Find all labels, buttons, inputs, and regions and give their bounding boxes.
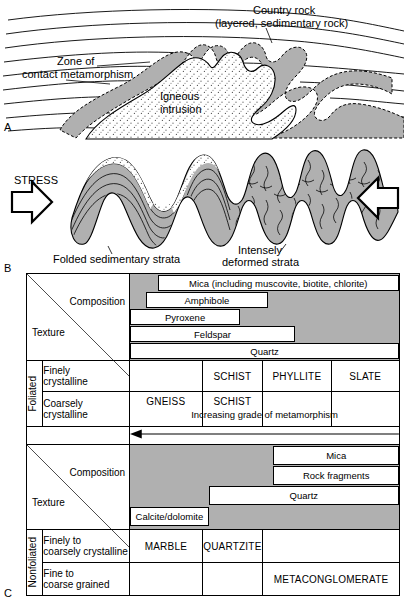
nonfoliated-header-row: Composition Texture Mica Rock fragments … bbox=[27, 445, 400, 530]
contact-metamorphism-label: contact metamorphism bbox=[22, 68, 133, 80]
panel-c-classification-table: B Composition Texture Mica (including mu… bbox=[0, 270, 404, 599]
folded-strata-label: Folded sedimentary strata bbox=[53, 253, 180, 265]
cell-nonfoliated-fine-marble bbox=[130, 563, 202, 596]
cell-nonfoliated-meta-empty bbox=[263, 530, 400, 563]
nonfoliated-composition-bars: Mica Rock fragments Quartz Calcite/dolom… bbox=[130, 445, 400, 530]
nonfoliated-corner-header: Composition Texture bbox=[27, 445, 130, 530]
bar-feldspar: Feldspar bbox=[130, 326, 295, 342]
composition-header-foliated: Composition bbox=[70, 296, 126, 307]
nonfoliated-group-label: Nonfoliated bbox=[27, 537, 38, 588]
grade-arrow-row: Increasing grade of metamorphism bbox=[27, 427, 400, 445]
texture-coarsely-crystalline: Coarsely crystalline bbox=[43, 392, 130, 427]
cell-foliated-fine-schist: SCHIST bbox=[202, 361, 263, 392]
cell-foliated-fine-gneiss bbox=[130, 361, 202, 392]
country-rock-label: Country rock bbox=[253, 4, 315, 16]
panel-b-regional-metamorphism: STRESS Folded sedimentary strata Intense… bbox=[0, 140, 404, 270]
cell-foliated-fine-slate: SLATE bbox=[331, 361, 399, 392]
composition-header-nonfoliated: Composition bbox=[70, 467, 126, 478]
texture-header-nonfoliated: Texture bbox=[32, 497, 65, 508]
cell-nonfoliated-fine-quartzite bbox=[202, 563, 263, 596]
grade-arrow-icon bbox=[130, 427, 399, 441]
cell-nonfoliated-quartzite: QUARTZITE bbox=[202, 530, 263, 563]
grade-arrow-cell: Increasing grade of metamorphism bbox=[130, 427, 400, 445]
panel-b-svg bbox=[0, 140, 404, 270]
deformed-strata-label: deformed strata bbox=[222, 256, 299, 268]
foliated-corner-header: Composition Texture bbox=[27, 274, 130, 361]
igneous-label: Igneous bbox=[160, 90, 199, 102]
table-row: Fine to coarse grained METACONGLOMERATE bbox=[27, 563, 400, 596]
texture-fine-to-coarse-grained: Fine to coarse grained bbox=[43, 563, 130, 596]
stress-label: STRESS bbox=[14, 174, 58, 186]
grade-arrow-spacer bbox=[27, 427, 130, 445]
stress-arrow-left bbox=[12, 182, 52, 222]
bar-quartz-nonfoliated: Quartz bbox=[209, 486, 399, 505]
zone-of-label: Zone of bbox=[57, 55, 94, 67]
texture-header-foliated: Texture bbox=[32, 327, 65, 338]
foliated-header-row: Composition Texture Mica (including musc… bbox=[27, 274, 400, 361]
cell-nonfoliated-marble: MARBLE bbox=[130, 530, 202, 563]
panel-b-label: B bbox=[4, 262, 11, 274]
bar-mica-nonfoliated: Mica bbox=[273, 446, 399, 465]
country-rock-sublabel: (layered, sedimentary rock) bbox=[215, 17, 348, 29]
corner-diagonal-icon bbox=[27, 274, 129, 376]
intensely-label: Intensely bbox=[238, 244, 282, 256]
bar-mica-foliated: Mica (including muscovite, biotite, chlo… bbox=[158, 275, 399, 291]
bar-rock-fragments: Rock fragments bbox=[273, 466, 399, 485]
cell-nonfoliated-metaconglomerate: METACONGLOMERATE bbox=[263, 563, 400, 596]
corner-diagonal-icon bbox=[27, 445, 129, 547]
foliated-group-label: Foliated bbox=[27, 376, 38, 412]
bar-calcite-dolomite: Calcite/dolomite bbox=[130, 507, 209, 526]
cell-foliated-fine-phyllite: PHYLLITE bbox=[263, 361, 331, 392]
intrusion-label: intrusion bbox=[160, 103, 202, 115]
panel-a-label: A bbox=[4, 121, 11, 133]
bar-quartz-foliated: Quartz bbox=[130, 343, 399, 359]
bar-pyroxene: Pyroxene bbox=[130, 309, 240, 325]
bar-amphibole: Amphibole bbox=[146, 292, 268, 308]
foliated-composition-bars: Mica (including muscovite, biotite, chlo… bbox=[130, 274, 400, 361]
grade-arrow-text: Increasing grade of metamorphism bbox=[130, 409, 399, 420]
panel-a-contact-metamorphism: Country rock (layered, sedimentary rock)… bbox=[0, 0, 404, 140]
panel-c-label: C bbox=[4, 587, 12, 599]
metamorphic-classification-table: Composition Texture Mica (including musc… bbox=[26, 273, 400, 596]
